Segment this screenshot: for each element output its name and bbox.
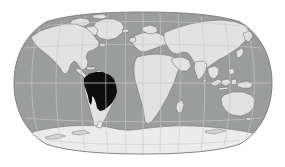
land-sulawesi: [231, 79, 237, 85]
world-map-graphic: [0, 0, 285, 167]
world-locator-map-figure: [0, 0, 285, 167]
